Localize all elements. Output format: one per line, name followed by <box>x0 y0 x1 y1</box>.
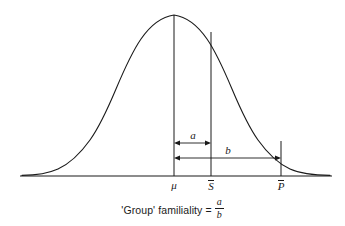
distribution-figure: a b μ S P 'Group' familiality = a b <box>0 0 345 226</box>
fraction-denominator: b <box>215 209 224 220</box>
axis-tick-label-s-bar: S <box>204 180 218 192</box>
dimension-arrow-b <box>174 156 281 161</box>
figure-caption: 'Group' familiality = a b <box>0 198 345 221</box>
caption-text: 'Group' familiality = <box>121 204 211 216</box>
caption-fraction: a b <box>215 197 224 220</box>
p-bar-glyph: P <box>278 180 285 192</box>
dimension-arrow-a <box>174 141 211 146</box>
fraction-numerator: a <box>215 197 224 208</box>
s-bar-glyph: S <box>208 180 214 192</box>
normal-curve <box>22 15 330 175</box>
distribution-plot <box>0 0 345 226</box>
dimension-label-b: b <box>221 145 235 156</box>
mu-glyph: μ <box>171 179 177 191</box>
axis-tick-label-p-bar: P <box>274 180 288 192</box>
axis-tick-label-mu: μ <box>167 180 181 191</box>
dimension-label-a: a <box>186 130 200 141</box>
